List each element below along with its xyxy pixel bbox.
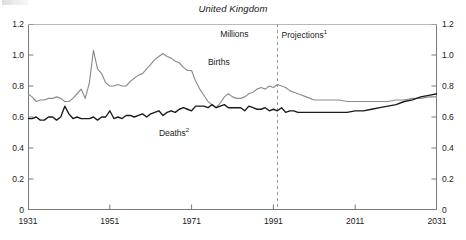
y-tick-label-left-3: 0.6 xyxy=(2,112,24,122)
series-line-births xyxy=(28,50,437,107)
x-tick-label-1: 1951 xyxy=(93,216,127,226)
y-tick-label-right-0: 0 xyxy=(442,205,466,215)
y-tick-label-right-2: 0.4 xyxy=(442,143,466,153)
y-tick-label-right-3: 0.6 xyxy=(442,112,466,122)
y-tick-label-right-4: 0.8 xyxy=(442,81,466,91)
series-line-deaths xyxy=(28,94,437,120)
footnote-marker: 2 xyxy=(186,127,189,133)
plot-area xyxy=(28,24,437,210)
chart-title: United Kingdom xyxy=(0,3,466,14)
x-tick-label-0: 1931 xyxy=(11,216,45,226)
y-tick-label-left-2: 0.4 xyxy=(2,143,24,153)
y-tick-label-right-5: 1.0 xyxy=(442,50,466,60)
chart-canvas xyxy=(28,24,437,210)
annotation-deaths: Deaths2 xyxy=(159,127,189,138)
annotation-births: Births xyxy=(208,57,230,67)
y-tick-label-left-5: 1.0 xyxy=(2,50,24,60)
x-tick-label-2: 1971 xyxy=(175,216,209,226)
annotation-projections: Projections1 xyxy=(282,29,327,40)
y-tick-label-left-0: 0 xyxy=(2,205,24,215)
y-tick-label-left-1: 0.2 xyxy=(2,174,24,184)
y-tick-label-left-6: 1.2 xyxy=(2,19,24,29)
y-tick-label-right-1: 0.2 xyxy=(442,174,466,184)
x-tick-label-3: 1991 xyxy=(256,216,290,226)
x-tick-label-5: 2031 xyxy=(420,216,454,226)
y-tick-label-right-6: 1.2 xyxy=(442,19,466,29)
figure: United Kingdom 000.20.20.40.40.60.60.80.… xyxy=(0,0,466,240)
y-tick-label-left-4: 0.8 xyxy=(2,81,24,91)
footnote-marker: 1 xyxy=(324,29,327,35)
x-tick-label-4: 2011 xyxy=(338,216,372,226)
annotation-millions: Millions xyxy=(220,29,248,39)
